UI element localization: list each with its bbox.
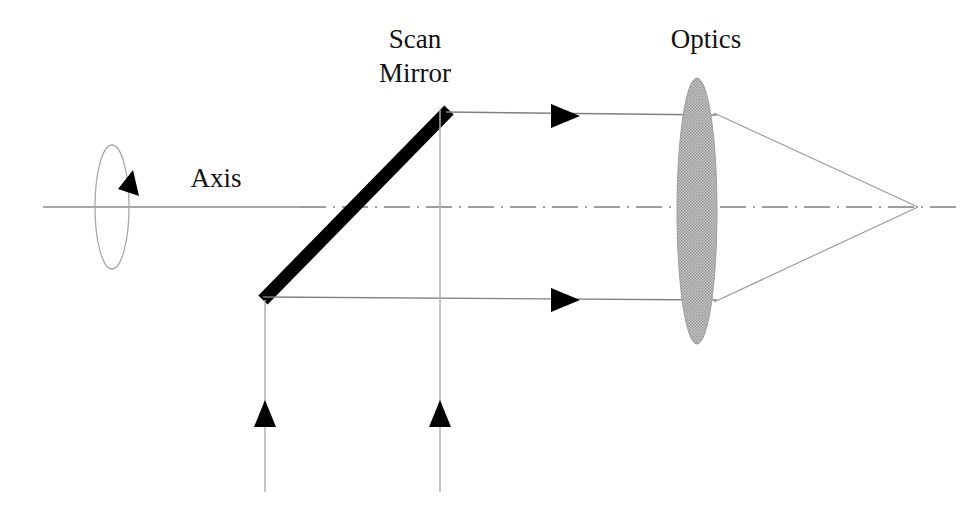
scan-direction-arrows-group [254,110,451,492]
optics-lens-element [677,78,717,344]
scan-mirror-bar [263,110,449,300]
optical-diagram-svg: Scan Mirror Optics Axis [0,0,969,512]
lower-beam-arrowhead-icon [551,288,580,312]
scan-direction-right-arrowhead-icon [429,400,451,427]
axis-label: Axis [190,163,241,193]
lower-beam-ray [263,297,717,300]
upper-beam-ray [446,112,717,115]
scan-direction-left-arrowhead-icon [254,400,276,427]
optical-diagram-canvas: Scan Mirror Optics Axis [0,0,969,512]
scan-mirror-label-line1: Scan [389,24,442,54]
rotation-arrowhead-icon [118,170,139,196]
optics-label: Optics [671,24,742,54]
beam-rays-group [263,104,717,312]
converging-ray-lower [714,207,918,302]
converging-ray-upper [714,113,918,207]
upper-beam-arrowhead-icon [551,104,580,128]
scan-mirror-label-line2: Mirror [379,58,451,88]
